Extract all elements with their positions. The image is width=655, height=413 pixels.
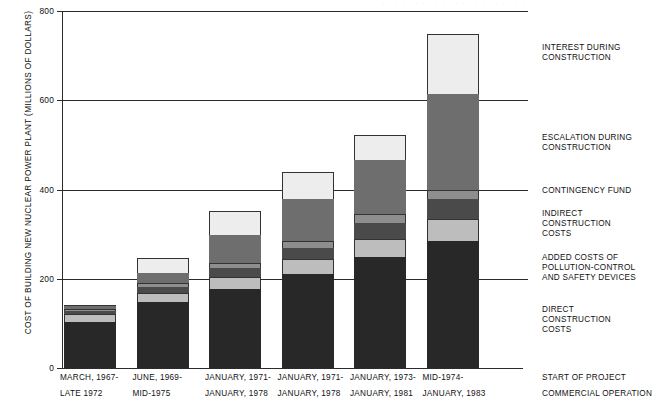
plot-area	[62, 11, 528, 368]
x-axis-label-line1: JUNE, 1969-	[133, 373, 183, 382]
bar-segment[interactable]	[354, 257, 406, 368]
bar-segment[interactable]	[282, 248, 334, 259]
bar-segment[interactable]	[137, 273, 189, 283]
bar[interactable]	[282, 172, 334, 368]
x-axis-label-line1: JANUARY, 1971-	[278, 373, 344, 382]
y-tick-label: 200	[24, 274, 54, 284]
y-axis-title: COST OF BUILDING NEW NUCLEAR POWER PLANT…	[24, 8, 33, 338]
x-axis-label: MARCH, 1967-LATE 1972	[60, 373, 119, 398]
bar-segment[interactable]	[64, 305, 116, 307]
bar-segment[interactable]	[209, 268, 261, 276]
x-axis-label-line1: JANUARY, 1973-	[350, 373, 416, 382]
bar-segment[interactable]	[64, 306, 116, 308]
bar-segment[interactable]	[209, 289, 261, 368]
bar-segment[interactable]	[282, 172, 334, 199]
legend-item: ADDED COSTS OF POLLUTION-CONTROL AND SAF…	[542, 253, 636, 284]
bar-segment[interactable]	[137, 287, 189, 293]
bar-segment[interactable]	[282, 199, 334, 241]
x-axis-label-line2: JANUARY, 1978	[205, 389, 271, 398]
legend-item: INDIRECT CONSTRUCTION COSTS	[542, 209, 611, 240]
bar-segment[interactable]	[427, 190, 479, 200]
bar-segment[interactable]	[354, 223, 406, 239]
x-axis-label-line2: MID-1975	[133, 389, 183, 398]
x-axis-label-line1: JANUARY, 1971-	[205, 373, 271, 382]
bar-segment[interactable]	[427, 34, 479, 93]
bar[interactable]	[427, 34, 479, 368]
x-axis-label: JUNE, 1969-MID-1975	[133, 373, 183, 398]
bar-segment[interactable]	[64, 311, 116, 315]
legend-item: INTEREST DURING CONSTRUCTION	[542, 43, 621, 63]
x-axis-label-line1: MARCH, 1967-	[60, 373, 119, 382]
y-tick-label: 600	[24, 95, 54, 105]
bar-segment[interactable]	[427, 241, 479, 368]
bar-segment[interactable]	[209, 277, 261, 289]
row-key-line1: START OF PROJECT	[542, 373, 626, 382]
bar-segment[interactable]	[64, 314, 116, 322]
x-axis-label-line1: MID-1974-	[423, 373, 464, 382]
bar-segment[interactable]	[354, 135, 406, 160]
x-axis-label: JANUARY, 1971-JANUARY, 1978	[205, 373, 271, 398]
y-tick-label: 0	[24, 363, 54, 373]
bar-segment[interactable]	[282, 241, 334, 248]
y-tick-label: 400	[24, 185, 54, 195]
bar-segment[interactable]	[209, 211, 261, 234]
page-header-remnant: · · · · · · · · · · · · · · · · · · · · …	[382, 0, 652, 9]
bar-segment[interactable]	[137, 293, 189, 302]
x-axis-label-line2: JANUARY, 1978	[278, 389, 344, 398]
chart-root: · · · · · · · · · · · · · · · · · · · · …	[0, 0, 655, 413]
x-axis-label: JANUARY, 1973-JANUARY, 1981	[350, 373, 416, 398]
bar-segment[interactable]	[354, 160, 406, 214]
bar-segment[interactable]	[282, 259, 334, 274]
bar-segment[interactable]	[209, 263, 261, 268]
bar-segment[interactable]	[354, 239, 406, 257]
bar-segment[interactable]	[137, 258, 189, 273]
bar-segment[interactable]	[354, 214, 406, 223]
legend-item: CONTINGENCY FUND	[542, 186, 631, 196]
x-axis-label-line2: JANUARY, 1981	[350, 389, 416, 398]
y-tick-label: 800	[24, 6, 54, 16]
bar[interactable]	[354, 135, 406, 368]
x-axis-label-line2: LATE 1972	[60, 389, 119, 398]
bar[interactable]	[64, 305, 116, 368]
bar-segment[interactable]	[282, 274, 334, 368]
bar-segment[interactable]	[64, 322, 116, 368]
bar-segment[interactable]	[64, 309, 116, 311]
bar-segment[interactable]	[427, 199, 479, 219]
legend-item: ESCALATION DURING CONSTRUCTION	[542, 133, 632, 153]
bar-segment[interactable]	[427, 219, 479, 240]
x-axis-label: JANUARY, 1971-JANUARY, 1978	[278, 373, 344, 398]
row-key-line2: COMMERCIAL OPERATION	[542, 389, 652, 398]
bar-segment[interactable]	[209, 235, 261, 264]
bar-segment[interactable]	[427, 94, 479, 190]
x-axis-baseline	[62, 368, 523, 369]
bar[interactable]	[209, 211, 261, 368]
bar-segment[interactable]	[137, 283, 189, 287]
x-axis-label: MID-1974-JANUARY, 1983	[423, 373, 486, 398]
x-axis-label-line2: JANUARY, 1983	[423, 389, 486, 398]
bar-segment[interactable]	[137, 302, 189, 368]
bar[interactable]	[137, 258, 189, 368]
row-key: START OF PROJECT COMMERCIAL OPERATION	[542, 373, 652, 398]
legend-item: DIRECT CONSTRUCTION COSTS	[542, 305, 611, 336]
